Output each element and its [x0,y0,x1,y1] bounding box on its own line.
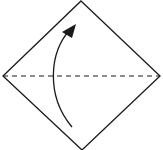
paper-square [3,1,160,150]
origami-diagram [0,0,163,150]
